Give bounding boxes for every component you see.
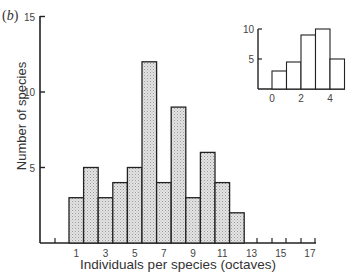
histogram-bar [200, 152, 215, 243]
y-tick-label: 15 [24, 12, 36, 23]
histogram-bar [142, 62, 157, 243]
inset-histogram-bar [316, 29, 331, 89]
main-histogram: 510151357911131517 [24, 12, 316, 260]
inset-histogram-bar [287, 62, 302, 89]
inset-histogram-bar [330, 59, 345, 89]
x-tick-label: 5 [132, 248, 138, 259]
inset-histogram: 510024 [243, 24, 345, 104]
x-tick-label: 3 [103, 248, 109, 259]
histogram-bar [157, 183, 172, 243]
inset-x-tick-label: 0 [269, 93, 275, 104]
histogram-bar [215, 183, 230, 243]
histogram-bar [171, 107, 186, 243]
histogram-bar [186, 198, 201, 243]
x-tick-label: 11 [217, 248, 228, 259]
histogram-bar [113, 183, 128, 243]
histogram-bar [230, 213, 245, 243]
histogram-bar [84, 168, 99, 244]
x-tick-label: 9 [190, 248, 196, 259]
inset-x-tick-label: 4 [327, 93, 333, 104]
histogram-figure: 510151357911131517 510024 [0, 0, 352, 274]
x-tick-label: 17 [304, 248, 316, 259]
y-tick-label: 5 [29, 163, 35, 174]
x-tick-label: 1 [74, 248, 80, 259]
x-tick-label: 13 [246, 248, 258, 259]
inset-histogram-bar [272, 71, 287, 89]
x-tick-label: 7 [161, 248, 167, 259]
inset-y-tick-label: 5 [248, 54, 254, 65]
inset-y-tick-label: 10 [243, 24, 255, 35]
y-tick-label: 10 [24, 87, 36, 98]
histogram-bar [127, 168, 142, 244]
histogram-bar [69, 198, 84, 243]
inset-x-tick-label: 2 [298, 93, 304, 104]
histogram-bar [98, 198, 113, 243]
inset-histogram-bar [301, 35, 316, 89]
x-tick-label: 15 [275, 248, 287, 259]
